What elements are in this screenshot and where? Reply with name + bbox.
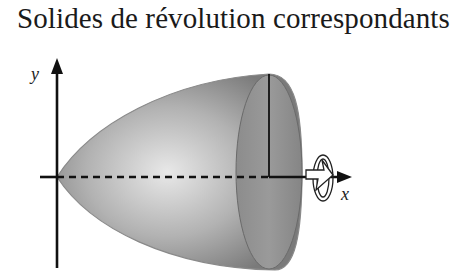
x-axis-arrow-icon bbox=[337, 171, 352, 183]
x-axis-label: x bbox=[340, 184, 349, 204]
rotation-arrow-icon bbox=[306, 155, 333, 201]
solid-of-revolution-diagram: y x bbox=[0, 0, 452, 278]
y-axis-label: y bbox=[29, 64, 39, 84]
y-axis-arrow-icon bbox=[51, 58, 63, 74]
